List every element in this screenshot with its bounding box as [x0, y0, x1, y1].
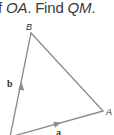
- vertex-label-b: B: [26, 22, 32, 32]
- triangle-figure: [0, 0, 114, 135]
- vertex-label-a: A: [106, 107, 112, 117]
- vector-label-a: a: [56, 127, 61, 135]
- side-ba: [31, 33, 103, 111]
- arrow-b-icon: [18, 82, 24, 91]
- vector-label-b: b: [7, 78, 13, 89]
- side-ob: [10, 33, 31, 135]
